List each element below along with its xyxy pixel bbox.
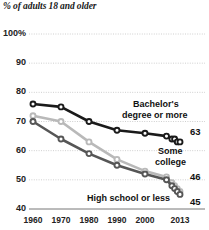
- series-label-some-college-line2: college: [155, 157, 186, 167]
- series-label-bachelors-line1: Bachelor's: [133, 99, 179, 109]
- data-point-marker: [178, 139, 183, 144]
- y-axis-tick-label: 60: [0, 145, 26, 155]
- y-axis-tick-label: 50: [0, 174, 26, 184]
- data-point-marker: [115, 128, 120, 133]
- x-axis-tick-label: 2000: [125, 215, 165, 225]
- data-point-marker: [115, 163, 120, 168]
- data-point-marker: [59, 119, 64, 124]
- data-point-marker: [31, 113, 36, 118]
- data-point-marker: [31, 119, 36, 124]
- data-point-marker: [87, 151, 92, 156]
- series-label-high-school-line1: High school or less: [87, 193, 170, 203]
- data-point-marker: [178, 192, 183, 197]
- end-value-bachelors: 63: [190, 126, 201, 137]
- data-point-marker: [143, 131, 148, 136]
- y-axis-tick-label: 70: [0, 116, 26, 126]
- series-label-some-college-line1: Some: [158, 146, 183, 156]
- y-axis-tick-label: 100%: [0, 28, 26, 38]
- data-point-marker: [164, 177, 169, 182]
- end-value-some-college: 46: [190, 171, 201, 182]
- data-point-marker: [59, 104, 64, 109]
- line-chart: % of adults 18 and older 405060708090100…: [0, 0, 209, 230]
- data-point-marker: [87, 139, 92, 144]
- data-point-marker: [164, 134, 169, 139]
- data-point-marker: [115, 157, 120, 162]
- data-point-marker: [31, 102, 36, 107]
- y-axis-tick-label: 40: [0, 203, 26, 213]
- data-point-marker: [143, 172, 148, 177]
- y-axis-tick-label: 80: [0, 86, 26, 96]
- end-value-high-school: 45: [190, 196, 201, 207]
- data-point-marker: [87, 119, 92, 124]
- y-axis-tick-label: 90: [0, 57, 26, 67]
- data-point-marker: [59, 137, 64, 142]
- x-axis-tick-label: 2013: [160, 215, 200, 225]
- series-label-bachelors-line2: degree or more: [122, 110, 188, 120]
